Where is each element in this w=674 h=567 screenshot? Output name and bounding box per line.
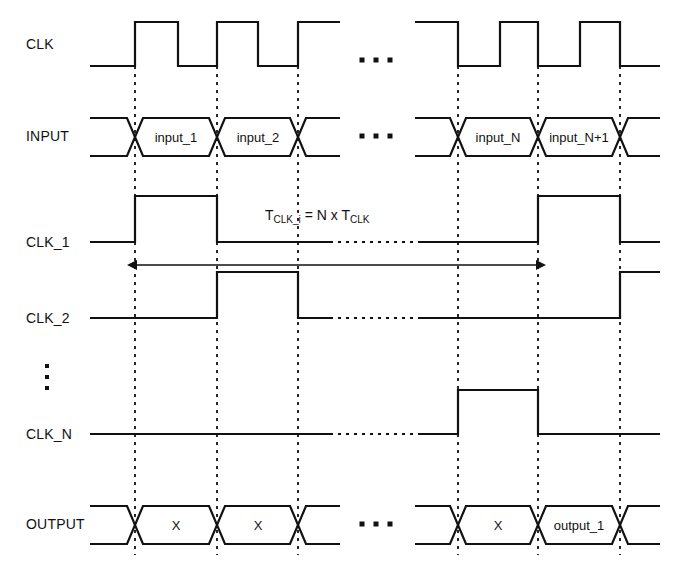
signal-label-clk-2: CLK_2 <box>26 310 70 326</box>
input-row-ellipsis-icon <box>360 134 393 139</box>
period-annotation: TCLK_i = N x TCLK <box>265 207 369 226</box>
period-annotation-sub1: CLK_i <box>274 214 301 225</box>
bus-value-input-n-plus-1: input_N+1 <box>549 130 609 145</box>
timing-diagram-figure: CLK INPUT CLK_1 CLK_2 CLK_N OUTPUT input… <box>0 0 674 567</box>
signal-label-clk: CLK <box>26 36 54 52</box>
waveform-clk2-left <box>90 272 330 318</box>
bus-value-input-n: input_N <box>476 130 521 145</box>
output-row-ellipsis-icon <box>360 522 393 527</box>
waveform-clk-left <box>90 22 340 66</box>
bus-value-output-1: output_1 <box>554 518 605 533</box>
bus-value-output-x-2: X <box>254 518 263 533</box>
timing-diagram-canvas <box>0 0 674 567</box>
signal-label-clk-n: CLK_N <box>26 426 72 442</box>
waveform-clk1-right <box>420 196 660 242</box>
period-annotation-prefix: T <box>265 207 274 223</box>
bus-value-input-1: input_1 <box>155 130 198 145</box>
signal-label-input: INPUT <box>26 128 69 144</box>
signal-label-output: OUTPUT <box>26 516 85 532</box>
signal-label-clk-1: CLK_1 <box>26 234 70 250</box>
bus-value-output-x-3: X <box>494 518 503 533</box>
bus-value-input-2: input_2 <box>237 130 280 145</box>
clk-row-ellipsis-icon <box>360 58 393 63</box>
period-annotation-sub2: CLK <box>350 214 369 225</box>
bus-value-output-x-1: X <box>172 518 181 533</box>
period-annotation-middle: = N x T <box>301 207 350 223</box>
waveform-clk-right <box>415 22 660 66</box>
signal-list-vertical-ellipsis <box>45 364 49 390</box>
waveform-clk2-right <box>420 272 660 318</box>
waveform-clkn-right <box>420 390 660 434</box>
